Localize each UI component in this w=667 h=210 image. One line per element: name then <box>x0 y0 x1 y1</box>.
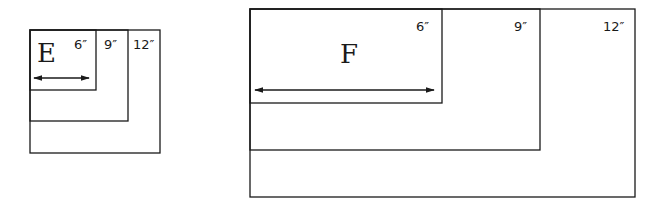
rect-f-9in <box>250 9 540 150</box>
figure-e-size-12: 12″ <box>133 37 155 52</box>
figure-f-size-12: 12″ <box>603 19 625 34</box>
figure-e-size-6: 6″ <box>74 37 87 52</box>
figure-f: F 6″ 9″ 12″ <box>250 9 635 197</box>
figure-e-label: E <box>37 38 56 68</box>
figure-e-size-9: 9″ <box>104 37 117 52</box>
figure-f-size-9: 9″ <box>514 19 527 34</box>
diagram-canvas: E 6″ 9″ 12″ F 6″ 9″ 12″ <box>0 0 667 210</box>
figure-f-label: F <box>340 39 358 69</box>
figure-e: E 6″ 9″ 12″ <box>30 30 160 153</box>
figure-f-size-6: 6″ <box>416 19 429 34</box>
